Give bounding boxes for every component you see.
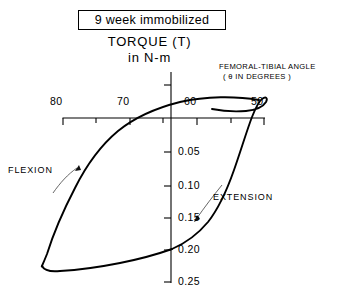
figure-container: 9 week immobilized TORQUE (T) in N-m FEM… — [0, 0, 343, 295]
x-axis-annotation-line2: ( θ IN DEGREES ) — [219, 72, 316, 82]
x-tick-label-60: 60 — [184, 95, 196, 107]
y-tick-label-005: 0.05 — [178, 145, 200, 157]
y-axis-ticks — [164, 85, 171, 282]
x-tick-label-80: 80 — [50, 95, 62, 107]
y-tick-label-025: 0.25 — [178, 275, 200, 287]
y-tick-label-020: 0.20 — [178, 243, 200, 255]
x-tick-label-70: 70 — [117, 95, 129, 107]
x-axis-ticks — [63, 118, 264, 125]
hysteresis-loop-curve — [42, 97, 267, 271]
x-tick-label-50: 50 — [251, 95, 263, 107]
flexion-branch — [42, 97, 259, 266]
x-axis-annotation-line1: FEMORAL-TIBIAL ANGLE — [219, 62, 316, 72]
figure-title: 9 week immobilized — [95, 13, 209, 27]
y-tick-label-015: 0.15 — [178, 211, 200, 223]
flexion-arrow-head — [75, 165, 81, 171]
extension-label: EXTENSION — [213, 192, 273, 202]
y-axis-title-line1: TORQUE (T) — [0, 34, 321, 49]
y-tick-label-010: 0.10 — [178, 179, 200, 191]
flexion-arrow — [53, 165, 81, 193]
x-axis-annotation: FEMORAL-TIBIAL ANGLE ( θ IN DEGREES ) — [219, 62, 316, 83]
flexion-label: FLEXION — [8, 165, 53, 175]
extension-branch — [172, 98, 267, 249]
loop-left-bottom — [42, 249, 172, 271]
figure-title-box: 9 week immobilized — [78, 10, 226, 30]
